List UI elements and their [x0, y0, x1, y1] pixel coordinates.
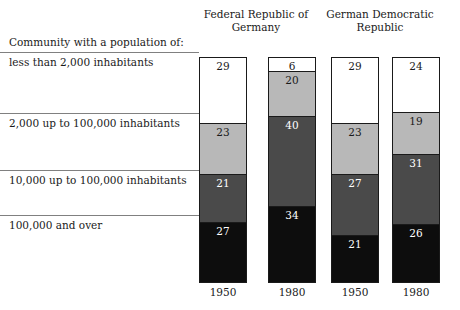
bar-segment: 23 [200, 123, 246, 175]
bar-segment-value: 27 [332, 177, 378, 189]
bar-segment: 27 [332, 174, 378, 234]
bar-segment-value: 20 [269, 74, 315, 86]
year-tick-label: 1950 [331, 286, 379, 299]
chart-canvas: Federal Republic of Germany German Democ… [0, 0, 460, 310]
bar-segment: 40 [269, 116, 315, 206]
bar-segment: 19 [393, 112, 439, 155]
bar-segment-value: 21 [200, 177, 246, 189]
bar-segment-value: 29 [200, 60, 246, 72]
bar-segment: 26 [393, 224, 439, 282]
bar-segment-value: 19 [393, 115, 439, 127]
bar-segment-value: 29 [332, 60, 378, 72]
stacked-bar: 6204034 [268, 57, 316, 283]
column-group-header-gdr: German Democratic Republic [310, 8, 450, 34]
bar-segment: 29 [332, 58, 378, 123]
bar-segment-value: 40 [269, 119, 315, 131]
bar-segment-value: 23 [200, 126, 246, 138]
year-tick-label: 1980 [268, 286, 316, 299]
bar-segment: 21 [200, 174, 246, 221]
bar-segment-value: 21 [332, 238, 378, 250]
bar-segment-value: 6 [269, 60, 315, 71]
category-row: less than 2,000 inhabitants [0, 52, 199, 113]
category-label: 100,000 and over [0, 216, 199, 232]
bar-segment-value: 27 [200, 225, 246, 237]
bar-segment: 24 [393, 58, 439, 112]
bar-segment: 31 [393, 154, 439, 223]
category-label: 2,000 up to 100,000 inhabitants [0, 114, 199, 130]
bar-segment: 34 [269, 206, 315, 282]
column-group-header-frg: Federal Republic of Germany [186, 8, 326, 34]
category-row: 100,000 and over [0, 215, 199, 283]
year-tick-label: 1980 [392, 286, 440, 299]
category-label: less than 2,000 inhabitants [0, 53, 199, 69]
bar-segment-value: 31 [393, 157, 439, 169]
bar-segment-value: 34 [269, 209, 315, 221]
category-label: 10,000 up to 100,000 inhabitants [0, 171, 199, 187]
bar-segment: 29 [200, 58, 246, 123]
stacked-bar: 24193126 [392, 57, 440, 283]
bar-segment: 23 [332, 123, 378, 175]
bar-segment-value: 23 [332, 126, 378, 138]
stacked-bar: 29232721 [331, 57, 379, 283]
stacked-bar: 29232127 [199, 57, 247, 283]
year-tick-label: 1950 [199, 286, 247, 299]
bar-segment: 27 [200, 222, 246, 282]
bar-segment-value: 26 [393, 227, 439, 239]
bar-segment-value: 24 [393, 60, 439, 72]
category-row: 2,000 up to 100,000 inhabitants [0, 113, 199, 170]
bar-segment: 6 [269, 58, 315, 71]
bar-segment: 20 [269, 71, 315, 116]
category-row: 10,000 up to 100,000 inhabitants [0, 170, 199, 215]
bar-segment: 21 [332, 235, 378, 282]
chart-caption: Community with a population of: [9, 36, 184, 49]
